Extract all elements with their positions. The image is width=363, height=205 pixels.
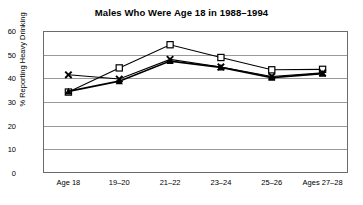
marker-open-square [218,54,224,60]
y-tick-label: 50 [0,51,16,60]
x-tick-label: 19–20 [109,178,130,187]
y-tick-label: 30 [0,98,16,107]
y-tick-label: 40 [0,74,16,83]
x-tick-label: Ages 27–28 [303,178,343,187]
y-axis-label: % Reporting Heavy Drinking [18,0,27,130]
y-tick-label: 60 [0,27,16,36]
x-tick-label: 23–24 [210,178,231,187]
series-line [68,61,322,91]
data-series-layer [43,31,348,173]
y-tick-label: 10 [0,145,16,154]
chart-title: Males Who Were Age 18 in 1988–1994 [0,7,363,18]
x-tick-label: 21–22 [160,178,181,187]
x-tick-label: 25–26 [261,178,282,187]
marker-open-square [269,67,275,73]
series-open-square [65,42,325,96]
marker-open-square [116,65,122,71]
marker-open-square [167,42,173,48]
chart-container: Males Who Were Age 18 in 1988–1994 % Rep… [0,0,363,205]
y-tick-label: 20 [0,122,16,131]
x-tick-label: Age 18 [57,178,81,187]
series-line [68,45,322,92]
y-tick-label: 0 [0,169,16,178]
